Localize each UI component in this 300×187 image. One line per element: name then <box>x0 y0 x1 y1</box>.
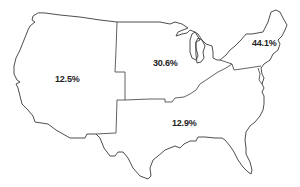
us-outline <box>14 10 287 179</box>
border-west-south <box>96 100 125 134</box>
region-label-south: 12.9% <box>172 118 197 128</box>
border-west-midwest <box>115 22 125 100</box>
border-midwest-northeast <box>220 60 232 64</box>
region-label-west: 12.5% <box>55 74 80 84</box>
region-label-midwest: 30.6% <box>153 58 178 68</box>
region-label-northeast: 44.1% <box>252 38 277 48</box>
us-regions-map <box>0 0 300 187</box>
border-midwest-south <box>125 64 232 102</box>
border-northeast-south <box>232 64 261 70</box>
